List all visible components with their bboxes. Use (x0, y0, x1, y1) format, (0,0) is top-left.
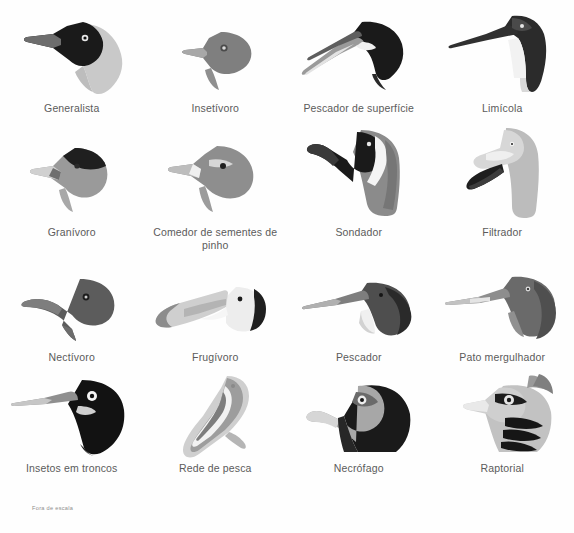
flamingo-head-icon (436, 136, 568, 218)
beak-type-row: Insetos em troncos Rede de pesca (0, 376, 574, 486)
kingfisher-head-icon (293, 271, 425, 343)
beak-type-cell-limicola: Limícola (431, 8, 574, 136)
merganser-head-icon (436, 271, 568, 343)
beak-type-label: Sondador (289, 226, 429, 239)
beak-type-cell-raptorial: Raptorial (431, 376, 574, 486)
beak-type-cell-generalista: Generalista (0, 8, 144, 136)
beak-type-label: Rede de pesca (145, 462, 285, 475)
bird-beak-types-figure: Generalista Insetívoro (0, 0, 574, 533)
beak-type-label: Generalista (2, 102, 142, 115)
finch-head-icon (6, 136, 138, 218)
beak-type-cell-granivoro: Granívoro (0, 136, 144, 271)
warbler-head-icon (149, 8, 281, 96)
beak-type-cell-insetivoro: Insetívoro (144, 8, 288, 136)
beak-type-label: Frugívoro (145, 351, 285, 364)
skimmer-head-icon (293, 8, 425, 96)
beak-type-cell-pescador-de-superficie: Pescador de superfície (287, 8, 431, 136)
crossbill-head-icon (149, 136, 281, 218)
beak-type-cell-frugivoro: Frugívoro (144, 271, 288, 376)
beak-type-label: Nectívoro (2, 351, 142, 364)
beak-type-grid: Generalista Insetívoro (0, 8, 574, 486)
beak-type-row: Generalista Insetívoro (0, 8, 574, 136)
beak-type-cell-necrofago: Necrófago (287, 376, 431, 486)
woodpecker-head-icon (6, 376, 138, 458)
toucan-head-icon (149, 271, 281, 343)
beak-type-cell-nectivoro: Nectívoro (0, 271, 144, 376)
beak-type-label: Pato mergulhador (432, 351, 572, 364)
beak-type-label: Granívoro (2, 226, 142, 239)
beak-type-label: Raptorial (432, 462, 572, 475)
ibis-head-icon (293, 136, 425, 218)
beak-type-cell-filtrador: Filtrador (431, 136, 574, 271)
beak-type-cell-comedor-de-sementes-de-pinho: Comedor de sementes de pinho (144, 136, 288, 271)
beak-type-cell-pato-mergulhador: Pato mergulhador (431, 271, 574, 376)
beak-type-label: Necrófago (289, 462, 429, 475)
beak-type-label: Insetívoro (145, 102, 285, 115)
scale-footnote: Fora de escala (32, 505, 73, 511)
beak-type-cell-rede-de-pesca: Rede de pesca (144, 376, 288, 486)
hummingbird-head-icon (6, 271, 138, 343)
eagle-head-icon (436, 376, 568, 458)
beak-type-label: Insetos em troncos (2, 462, 142, 475)
beak-type-label: Pescador (289, 351, 429, 364)
pelican-head-icon (149, 376, 281, 458)
beak-type-label: Filtrador (432, 226, 572, 239)
crow-head-icon (6, 8, 138, 96)
beak-type-cell-insetos-em-troncos: Insetos em troncos (0, 376, 144, 486)
beak-type-cell-pescador: Pescador (287, 271, 431, 376)
beak-type-cell-sondador: Sondador (287, 136, 431, 271)
godwit-head-icon (436, 8, 568, 96)
beak-type-label: Pescador de superfície (289, 102, 429, 115)
beak-type-row: Nectívoro Frugívoro (0, 271, 574, 376)
vulture-head-icon (293, 376, 425, 458)
beak-type-label: Comedor de sementes de pinho (145, 226, 285, 251)
beak-type-label: Limícola (432, 102, 572, 115)
beak-type-row: Granívoro Comedor de sementes de pinho (0, 136, 574, 271)
